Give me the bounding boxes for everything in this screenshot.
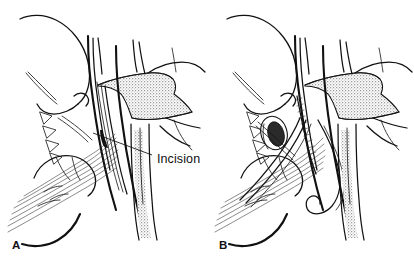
surgical-illustration [0,0,414,262]
figure-root: Incision A B [0,0,414,262]
